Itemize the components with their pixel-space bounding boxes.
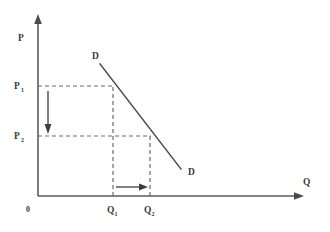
p2-tick-label: P 2 (14, 131, 24, 143)
demand-label-lower: D (188, 167, 195, 177)
demand-label-upper: D (92, 51, 99, 61)
price-arrow-head-icon (45, 124, 52, 134)
y-axis-arrowhead-icon (34, 14, 42, 24)
p2-base: P (14, 131, 20, 141)
p1-tick-label: P 1 (14, 81, 24, 93)
q1-subscript: 1 (115, 211, 118, 217)
q2-subscript: 2 (152, 211, 155, 217)
y-axis-label: P (18, 33, 24, 43)
demand-diagram-container: P Q 0 D D P 1 P 2 (0, 0, 330, 232)
quantity-increase-arrow (116, 184, 148, 191)
q1-base: Q (107, 205, 114, 215)
demand-curve (100, 64, 181, 169)
q2-tick-label: Q 2 (144, 205, 155, 217)
q1-tick-label: Q 1 (107, 205, 118, 217)
price-decrease-arrow (45, 91, 52, 134)
x-axis-label: Q (303, 177, 310, 187)
p1-subscript: 1 (21, 87, 24, 93)
q2-base: Q (144, 205, 151, 215)
guide-lines (38, 85, 151, 196)
p1-base: P (14, 81, 20, 91)
demand-curve-chart: P Q 0 D D P 1 P 2 (0, 0, 330, 232)
p2-subscript: 2 (21, 137, 24, 143)
demand-curve-line (100, 64, 181, 169)
x-axis-arrowhead-icon (294, 192, 304, 200)
x-axis (38, 192, 304, 200)
quantity-arrow-head-icon (139, 184, 148, 191)
origin-label: 0 (26, 205, 30, 214)
y-axis (34, 14, 42, 196)
